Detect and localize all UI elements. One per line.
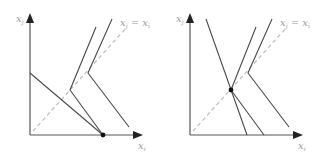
x-axis-label: xi [138,140,146,152]
y-axis-label: xj [176,13,184,26]
x-axis-arrow-icon [293,131,303,139]
curve-line-2 [70,27,103,135]
curve-line-2 [231,27,264,135]
y-axis-label: xj [16,13,24,26]
curve-line-3 [88,19,129,127]
diagonal-label: xj = xi [120,17,150,30]
right-panel: xjxixj = xi [176,13,310,152]
diagram-stage: xjxixj = xi xjxixj = xi [0,0,321,156]
curve-line-3 [248,19,289,127]
equilibrium-dot [229,88,234,93]
diagram-canvas: xjxixj = xi xjxixj = xi [0,0,321,156]
diagonal-label: xj = xi [280,17,310,30]
x-axis-label: xi [298,140,306,152]
y-axis-arrow-icon [186,13,194,23]
curve-line-1 [30,73,103,135]
equilibrium-dot [101,133,106,138]
curve-line-1 [206,19,247,135]
left-panel: xjxixj = xi [16,13,150,152]
y-axis-arrow-icon [26,13,34,23]
x-axis-arrow-icon [133,131,143,139]
